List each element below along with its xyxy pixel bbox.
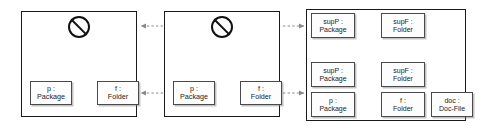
object-label-type: Package [37,93,65,101]
object-label-name: doc : [444,97,459,105]
object-label-name: supP : [323,67,343,75]
object-label-name: f : [400,97,406,105]
object-box-p-package[interactable]: p : Package [173,81,215,105]
object-label-name: p : [329,97,337,105]
object-label-type: Folder [393,75,413,83]
object-box-f-folder[interactable]: f : Folder [97,81,139,105]
object-box-supP-package-mid[interactable]: supP : Package [311,62,355,87]
object-label-type: Folder [393,26,413,34]
no-entry-icon [211,16,233,38]
object-label-name: supF : [393,18,412,26]
object-label-type: Folder [251,93,271,101]
object-box-p-package[interactable]: p : Package [30,81,72,105]
object-label-type: Folder [108,93,128,101]
object-box-p-package[interactable]: p : Package [311,92,355,117]
object-label-type: Package [319,105,346,113]
object-label-type: Package [319,75,346,83]
object-label-name: supF : [393,67,412,75]
no-entry-icon [68,16,90,38]
object-box-f-folder[interactable]: f : Folder [381,92,425,117]
object-label-type: Package [319,26,346,34]
object-label-name: supP : [323,18,343,26]
diagram-canvas: p : Package f : Folder p : Package f : F… [0,0,482,130]
object-box-supF-folder-top[interactable]: supF : Folder [381,13,425,38]
object-box-supF-folder-mid[interactable]: supF : Folder [381,62,425,87]
object-box-f-folder[interactable]: f : Folder [240,81,282,105]
object-box-doc-docfile[interactable]: doc : Doc-File [431,92,473,117]
object-box-supP-package-top[interactable]: supP : Package [311,13,355,38]
object-label-type: Package [180,93,208,101]
object-label-type: Doc-File [439,105,465,113]
object-label-type: Folder [393,105,413,113]
